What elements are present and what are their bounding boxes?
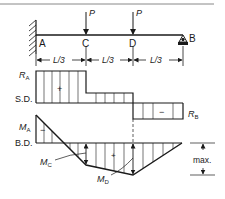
dimension-label: L/3 [150,55,162,65]
shear-diagram-label: S.D. [15,94,33,104]
load-label-d: P [136,8,142,18]
point-label-b: B [189,33,196,44]
moment-sign-negative: − [40,125,45,135]
moment-diagram-label: B.D. [15,138,33,148]
moment-sign-positive: + [111,151,116,160]
dimension-label: L/3 [102,55,114,65]
point-label-c: C [82,38,89,49]
fixed-wall-hatch-icon [29,20,36,56]
reaction-label-a: RA [19,70,30,81]
load-label-c: P [89,8,95,18]
moment-label-c: MC [40,157,53,168]
reaction-label-b: RB [188,109,199,120]
moment-diagram [36,115,215,175]
point-label-d: D [129,38,136,49]
moment-label-d: MD [97,174,110,185]
shear-sign-negative: − [159,107,164,117]
dimension-label: L/3 [53,55,65,65]
shear-sign-positive: + [57,84,62,94]
point-label-a: A [39,38,46,49]
max-moment-label: max. [193,155,211,165]
beam-diagram: P P A C D B L/3 L/3 L/3 + − RA S.D. RB [0,0,225,199]
moment-label-a: MA [19,122,31,133]
pin-support-icon [178,35,188,45]
